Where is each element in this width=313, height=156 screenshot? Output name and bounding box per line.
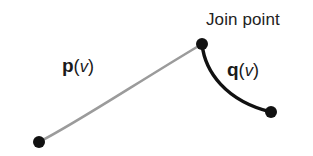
curve-q-label-name: q <box>227 59 239 80</box>
curve-p-label-name: p <box>62 55 74 76</box>
curve-p-label-close: ) <box>88 56 94 76</box>
curve-q-label-close: ) <box>253 60 259 80</box>
curve-p-label-arg: v <box>80 57 88 76</box>
p-start-point-marker <box>33 136 45 148</box>
curve-join-diagram: Join point p(v) q(v) <box>0 0 313 156</box>
join-point-label: Join point <box>206 11 280 28</box>
q-end-point-marker <box>265 106 277 118</box>
curve-q-label-arg: v <box>245 61 253 80</box>
join-point-marker <box>196 38 208 50</box>
curve-p-label: p(v) <box>62 56 94 76</box>
curve-q-label: q(v) <box>227 60 259 80</box>
